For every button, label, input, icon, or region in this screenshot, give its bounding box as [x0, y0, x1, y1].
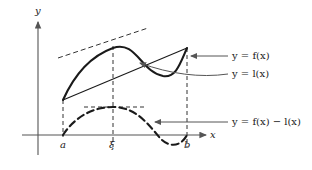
tick-label-b: b	[184, 140, 190, 150]
annotation-f-minus-l: y = f(x) − l(x)	[232, 117, 301, 127]
tick-label-a: a	[60, 140, 66, 150]
figure-canvas	[0, 0, 312, 170]
chord-line-lx	[63, 48, 187, 100]
annotation-fx: y = f(x)	[232, 51, 270, 61]
annotation-lx: y = l(x)	[232, 69, 269, 79]
curve-f-minus-l	[63, 107, 187, 145]
y-axis-label: y	[35, 6, 41, 16]
tick-label-xi: ξ	[109, 140, 115, 150]
x-axis-label: x	[210, 130, 216, 140]
leader-lx	[140, 63, 228, 76]
figure-container: y x a ξ b y = f(x) y = l(x) y = f(x) − l…	[0, 0, 312, 170]
